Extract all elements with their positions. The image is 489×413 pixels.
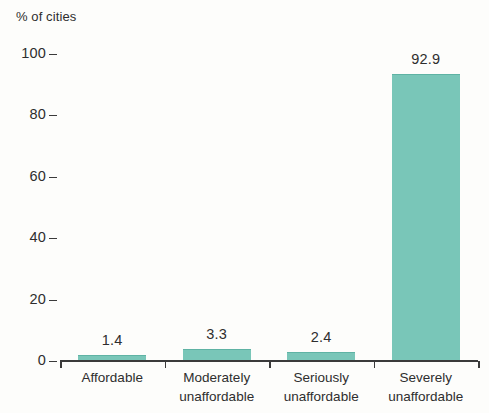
x-axis-tick-mark bbox=[374, 361, 376, 368]
x-axis-category-label-1: Affordable bbox=[60, 368, 165, 387]
x-axis-category-label-3: Seriouslyunaffordable bbox=[269, 368, 374, 406]
y-axis-tick-dash bbox=[49, 238, 57, 239]
y-axis-tick-label: 100 bbox=[21, 45, 46, 61]
x-axis-tick-mark bbox=[478, 361, 480, 368]
bar-value-label-3: 2.4 bbox=[271, 329, 371, 345]
x-axis-category-label-line: unaffordable bbox=[165, 387, 270, 406]
bar-value-label-4: 92.9 bbox=[376, 51, 476, 67]
x-axis-tick-mark bbox=[269, 361, 271, 368]
y-axis-tick-0: 0 bbox=[38, 352, 57, 368]
y-axis-tick-label: 40 bbox=[29, 229, 46, 245]
x-axis-category-label-line: Affordable bbox=[60, 368, 165, 387]
y-axis-tick-label: 0 bbox=[38, 352, 46, 368]
x-axis-category-label-4: Severelyunaffordable bbox=[374, 368, 479, 406]
y-axis-tick-100: 100 bbox=[21, 45, 57, 61]
y-axis-tick-label: 80 bbox=[29, 106, 46, 122]
x-axis-category-label-line: unaffordable bbox=[269, 387, 374, 406]
y-axis-tick-label: 20 bbox=[29, 291, 46, 307]
plot-area bbox=[60, 46, 478, 361]
bar-4 bbox=[392, 74, 460, 360]
y-axis-tick-40: 40 bbox=[29, 229, 57, 245]
bar-value-label-2: 3.3 bbox=[167, 326, 267, 342]
y-axis-tick-dash bbox=[49, 300, 57, 301]
y-axis-tick-group: 100806040200 bbox=[0, 0, 57, 413]
y-axis-tick-dash bbox=[49, 177, 57, 178]
bar-value-label-1: 1.4 bbox=[62, 332, 162, 348]
y-axis-tick-80: 80 bbox=[29, 106, 57, 122]
x-axis-category-label-line: Moderately bbox=[165, 368, 270, 387]
x-axis-tick-mark bbox=[165, 361, 167, 368]
y-axis-tick-label: 60 bbox=[29, 168, 46, 184]
x-axis-tick-mark bbox=[60, 361, 62, 368]
bar-3 bbox=[287, 352, 355, 360]
x-axis-category-label-2: Moderatelyunaffordable bbox=[165, 368, 270, 406]
x-axis-category-label-line: unaffordable bbox=[374, 387, 479, 406]
bar-1 bbox=[78, 355, 146, 360]
y-axis-tick-dash bbox=[49, 361, 57, 362]
y-axis-tick-dash bbox=[49, 115, 57, 116]
y-axis-tick-60: 60 bbox=[29, 168, 57, 184]
y-axis-tick-dash bbox=[49, 54, 57, 55]
x-axis-category-label-line: Seriously bbox=[269, 368, 374, 387]
bar-2 bbox=[183, 349, 251, 360]
y-axis-tick-20: 20 bbox=[29, 291, 57, 307]
bar-chart-figure: % of cities 100806040200 AffordableModer… bbox=[0, 0, 489, 413]
x-axis-category-label-line: Severely bbox=[374, 368, 479, 387]
